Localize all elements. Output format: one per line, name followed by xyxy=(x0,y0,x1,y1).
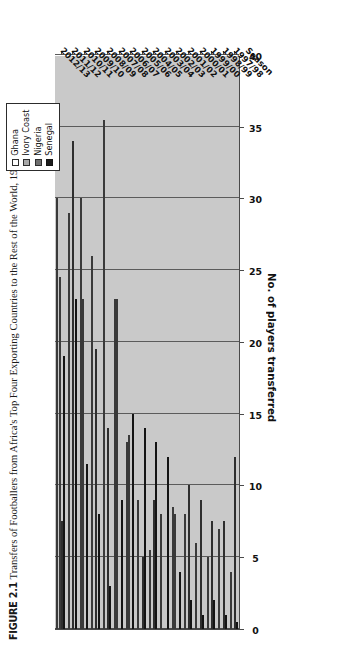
legend-swatch-senegal-icon xyxy=(46,159,53,166)
legend-swatch-nigeria-icon xyxy=(35,159,42,166)
bar-ghana-2009-10 xyxy=(91,256,93,629)
bar-ivory-coast-2006-07 xyxy=(128,435,130,629)
bar-nigeria-1998-99 xyxy=(223,521,225,629)
value-tick-10 xyxy=(240,486,244,487)
value-tick-label-30: 30 xyxy=(246,194,266,205)
legend-label-ghana: Ghana xyxy=(11,129,19,156)
value-tick-25 xyxy=(240,270,244,271)
bar-group-2008-09 xyxy=(101,56,113,629)
legend-swatch-ivory-icon xyxy=(23,159,30,166)
bar-group-2003-04 xyxy=(159,56,171,629)
value-tick-35 xyxy=(240,127,244,128)
legend-item-nigeria: Nigeria xyxy=(33,110,43,166)
bar-senegal-2005-06 xyxy=(144,428,146,629)
bar-ghana-2003-04 xyxy=(160,514,162,629)
bar-ghana-2004-05 xyxy=(149,550,151,629)
bar-ghana-1999-00 xyxy=(207,557,209,629)
bar-group-2002-03 xyxy=(171,56,183,629)
bar-group-2010-11 xyxy=(78,56,90,629)
bar-senegal-2010-11 xyxy=(86,464,88,629)
bar-ivory-coast-2002-03 xyxy=(174,514,176,629)
bar-ghana-1997-98 xyxy=(230,572,232,629)
bar-group-1997-98 xyxy=(228,56,240,629)
bar-group-2007-08 xyxy=(113,56,125,629)
bar-ghana-2011-12 xyxy=(68,213,70,629)
bar-ghana-2000-01 xyxy=(195,543,197,629)
bar-senegal-2001-02 xyxy=(190,600,192,629)
chart-legend: GhanaIvory CoastNigeriaSenegal xyxy=(6,104,60,171)
legend-label-ivory: Ivory Coast xyxy=(22,110,30,156)
bar-senegal-2000-01 xyxy=(202,615,204,629)
bar-group-1999-00 xyxy=(205,56,217,629)
bar-ivory-coast-2007-08 xyxy=(116,299,118,629)
value-tick-0 xyxy=(240,629,244,630)
value-tick-label-35: 35 xyxy=(246,122,266,133)
value-tick-label-0: 0 xyxy=(246,625,266,636)
bar-ghana-1998-99 xyxy=(218,529,220,629)
bar-senegal-2003-04 xyxy=(167,457,169,629)
legend-item-senegal: Senegal xyxy=(45,110,55,166)
bar-senegal-2011-12 xyxy=(75,299,77,629)
bar-group-2011-12 xyxy=(67,56,79,629)
bar-senegal-2012-13 xyxy=(63,356,65,629)
legend-label-senegal: Senegal xyxy=(45,123,53,156)
bar-group-2006-07 xyxy=(124,56,136,629)
bar-group-2004-05 xyxy=(148,56,160,629)
bar-senegal-1997-98 xyxy=(236,622,238,629)
legend-item-ivory: Ivory Coast xyxy=(22,110,32,166)
value-tick-20 xyxy=(240,342,244,343)
plot-outer: 05101520253035401997/981998/991999/00200… xyxy=(55,56,240,630)
bar-senegal-2006-07 xyxy=(132,414,134,629)
value-tick-label-20: 20 xyxy=(246,338,266,349)
bar-senegal-2007-08 xyxy=(121,500,123,629)
bar-senegal-1998-99 xyxy=(225,615,227,629)
legend-label-nigeria: Nigeria xyxy=(34,127,42,156)
bar-ghana-2008-09 xyxy=(103,120,105,629)
bar-ivory-coast-2010-11 xyxy=(82,299,84,629)
bar-senegal-2002-03 xyxy=(179,572,181,629)
value-tick-label-5: 5 xyxy=(246,553,266,564)
legend-item-ghana: Ghana xyxy=(10,110,20,166)
value-axis-title: No. of players transferred xyxy=(266,273,277,413)
bar-senegal-2009-10 xyxy=(98,514,100,629)
value-tick-label-15: 15 xyxy=(246,409,266,420)
bar-ghana-2001-02 xyxy=(184,514,186,629)
legend-swatch-ghana-icon xyxy=(12,159,19,166)
bar-group-2005-06 xyxy=(136,56,148,629)
value-tick-15 xyxy=(240,414,244,415)
value-tick-label-10: 10 xyxy=(246,481,266,492)
bar-ghana-2005-06 xyxy=(137,500,139,629)
value-tick-5 xyxy=(240,557,244,558)
bar-nigeria-1997-98 xyxy=(234,457,236,629)
value-tick-30 xyxy=(240,199,244,200)
value-tick-label-25: 25 xyxy=(246,266,266,277)
bar-group-1998-99 xyxy=(217,56,229,629)
bar-nigeria-2000-01 xyxy=(200,500,202,629)
chart-stage: 05101520253035401997/981998/991999/00200… xyxy=(0,0,344,664)
bar-senegal-2004-05 xyxy=(155,442,157,629)
plot-area xyxy=(55,56,240,630)
bar-senegal-2008-09 xyxy=(109,586,111,629)
bar-group-2001-02 xyxy=(182,56,194,629)
bar-senegal-1999-00 xyxy=(213,600,215,629)
bar-group-2000-01 xyxy=(194,56,206,629)
bar-group-2009-10 xyxy=(90,56,102,629)
